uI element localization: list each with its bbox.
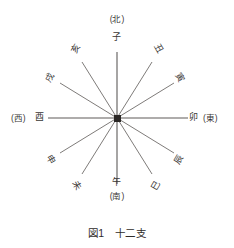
figure-caption: 図1 十二支: [0, 225, 234, 240]
direction-label-north: (北): [0, 14, 234, 25]
twelve-branches-compass-diagram: (北) (南) (西) (東) 子 丑 寅 卯 辰 巳 午: [0, 0, 234, 215]
branch-text-tori: 酉: [35, 113, 44, 122]
branch-text-u: 卯: [189, 113, 198, 122]
branch-text-uma: 午: [112, 178, 121, 187]
compass-center-hub: [114, 115, 121, 122]
direction-label-south: (南): [0, 191, 234, 202]
branch-label-ne: 子: [112, 33, 121, 42]
branch-label-tori: 酉: [35, 113, 44, 122]
direction-label-east: (東): [203, 113, 218, 124]
direction-label-west: (西): [11, 113, 26, 124]
branch-text-ne: 子: [112, 33, 121, 42]
zodiac-figure: (北) (南) (西) (東) 子 丑 寅 卯 辰 巳 午: [0, 0, 234, 248]
branch-label-uma: 午: [112, 178, 121, 187]
branch-label-u: 卯: [189, 113, 198, 122]
